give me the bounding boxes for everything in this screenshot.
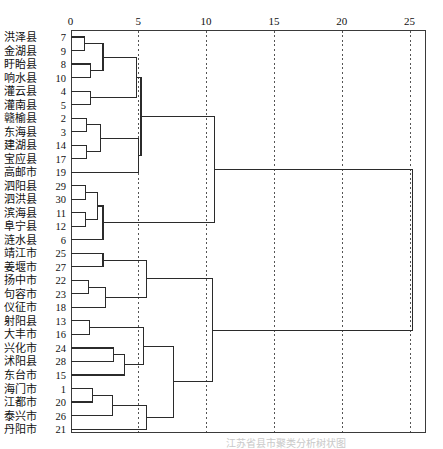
leaf-label-id: 25 — [56, 248, 67, 259]
dendrogram-link — [91, 57, 137, 98]
dendrogram-link — [144, 346, 174, 417]
leaf-label-name: 沭阳县 — [4, 355, 37, 367]
leaf-label-name: 泗洪县 — [4, 192, 37, 205]
leaf-label-id: 17 — [56, 154, 67, 165]
leaf-label-id: 2 — [61, 113, 66, 124]
dendrogram-link — [71, 118, 87, 132]
leaf-label-name: 宝应县 — [4, 152, 37, 165]
leaf-label-name: 丹阳市 — [4, 422, 37, 435]
axis-top: 0510152025 — [68, 15, 416, 27]
leaf-label-name: 江都市 — [4, 395, 37, 408]
leaf-label-name: 靖江市 — [4, 246, 37, 259]
dendrogram-link — [71, 37, 85, 51]
plot-border — [71, 31, 426, 433]
leaf-label-name: 大丰市 — [4, 327, 37, 340]
leaf-label-name: 海门市 — [4, 382, 37, 395]
dendrogram-link — [71, 213, 86, 227]
leaf-labels: 洪泽县7金湖县9盱眙县8响水县10灌云县4灌南县5赣榆县2东海县3建湖县14宝应… — [4, 30, 67, 435]
dendrogram-link — [213, 170, 412, 331]
leaf-label-id: 23 — [56, 289, 67, 300]
leaf-label-id: 5 — [61, 100, 66, 111]
axis-tick-label-15: 15 — [268, 15, 280, 27]
axis-tick-label-10: 10 — [201, 15, 213, 27]
leaf-label-id: 8 — [61, 59, 66, 70]
leaf-label-name: 泗阳县 — [4, 180, 37, 192]
leaf-label-name: 建湖县 — [4, 138, 37, 151]
dendrogram-links — [71, 37, 413, 429]
leaf-label-name: 盱眙县 — [4, 57, 37, 70]
dendrogram-plot: 0510152025洪泽县7金湖县9盱眙县8响水县10灌云县4灌南县5赣榆县2东… — [0, 0, 443, 449]
axis-tick-label-25: 25 — [404, 15, 416, 27]
dendrogram-link — [87, 125, 101, 152]
leaf-label-id: 9 — [61, 46, 66, 57]
leaf-label-id: 11 — [56, 208, 66, 219]
leaf-label-id: 10 — [56, 73, 67, 84]
leaf-label-id: 26 — [56, 411, 67, 422]
leaf-label-name: 高邮市 — [4, 165, 37, 178]
figure-caption: 江苏省县市聚类分析树状图 — [226, 437, 346, 449]
dendrogram-link — [71, 321, 90, 335]
leaf-label-id: 29 — [56, 181, 67, 192]
leaf-label-name: 响水县 — [4, 72, 37, 84]
dendrogram-figure: 0510152025洪泽县7金湖县9盱眙县8响水县10灌云县4灌南县5赣榆县2东… — [0, 0, 443, 449]
axis-tick-label-0: 0 — [68, 15, 74, 27]
dendrogram-link — [146, 279, 212, 382]
leaf-label-id: 24 — [56, 343, 67, 354]
dendrogram-link — [71, 253, 104, 267]
dendrogram-link — [137, 78, 141, 156]
leaf-label-name: 兴化市 — [4, 341, 37, 354]
leaf-label-name: 仪征市 — [4, 300, 37, 313]
axis-tick-label-20: 20 — [336, 15, 348, 27]
dendrogram-link — [71, 138, 139, 172]
leaf-label-id: 15 — [56, 370, 67, 381]
leaf-label-id: 22 — [56, 275, 67, 286]
leaf-label-name: 东海县 — [4, 125, 37, 138]
leaf-label-name: 涟水县 — [4, 233, 37, 246]
dendrogram-link — [103, 260, 146, 297]
leaf-label-id: 3 — [61, 127, 66, 138]
leaf-label-id: 14 — [56, 140, 67, 151]
leaf-label-id: 12 — [56, 221, 67, 232]
leaf-label-name: 阜宁县 — [4, 219, 37, 232]
leaf-label-id: 21 — [56, 424, 67, 435]
gridlines — [139, 31, 411, 433]
leaf-label-id: 13 — [56, 316, 67, 327]
leaf-label-name: 泰兴市 — [4, 409, 37, 422]
leaf-label-name: 灌南县 — [4, 99, 37, 111]
leaf-label-name: 句容市 — [4, 287, 37, 300]
leaf-label-name: 射阳县 — [4, 314, 37, 327]
dendrogram-link — [71, 405, 147, 429]
dendrogram-link — [71, 91, 91, 105]
leaf-label-id: 6 — [61, 235, 66, 246]
leaf-label-id: 4 — [61, 86, 67, 97]
leaf-label-name: 东台市 — [4, 368, 37, 381]
leaf-label-id: 28 — [56, 356, 67, 367]
leaf-label-name: 滨海县 — [4, 206, 37, 219]
leaf-label-id: 27 — [56, 262, 67, 273]
axis-tick-label-5: 5 — [136, 15, 142, 27]
leaf-label-name: 姜堰市 — [4, 260, 37, 273]
dendrogram-link — [71, 64, 91, 78]
dendrogram-link — [84, 44, 103, 71]
dendrogram-link — [89, 328, 143, 365]
leaf-label-id: 30 — [56, 194, 67, 205]
leaf-label-name: 灌云县 — [4, 85, 37, 97]
dendrogram-link — [71, 280, 89, 294]
leaf-label-id: 18 — [56, 302, 67, 313]
leaf-label-name: 扬中市 — [4, 273, 37, 286]
dendrogram-link — [71, 186, 86, 200]
dendrogram-link — [71, 395, 113, 415]
leaf-label-id: 19 — [56, 167, 67, 178]
dendrogram-link — [71, 355, 125, 375]
plot-frame — [71, 31, 426, 433]
leaf-label-name: 赣榆县 — [4, 111, 37, 124]
dendrogram-link — [103, 116, 214, 222]
dendrogram-link — [71, 348, 114, 362]
leaf-label-name: 洪泽县 — [4, 30, 37, 43]
leaf-label-id: 20 — [56, 397, 67, 408]
dendrogram-link — [71, 389, 93, 403]
leaf-label-id: 7 — [61, 32, 66, 43]
leaf-label-id: 16 — [56, 329, 67, 340]
leaf-label-id: 1 — [61, 384, 66, 395]
dendrogram-link — [71, 145, 87, 159]
